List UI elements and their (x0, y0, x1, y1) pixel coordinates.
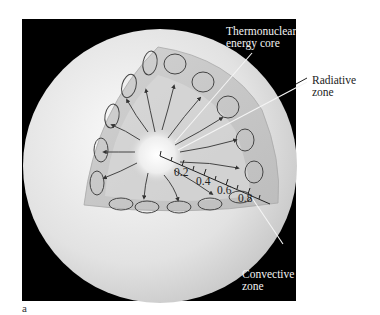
label-thermonuclear-core: Thermonuclear energy core (226, 25, 296, 49)
scale-tick-0.4: 0.4 (196, 175, 210, 187)
scale-tick-0.2: 0.2 (174, 166, 188, 178)
label-convective-zone: Convective zone (242, 268, 294, 292)
panel-letter: a (22, 302, 27, 314)
scale-tick-0.6: 0.6 (217, 184, 231, 196)
label-radiative-zone: Radiative zone (312, 74, 356, 98)
sun-interior-diagram (0, 0, 380, 315)
scale-tick-0.8: 0.8 (238, 192, 252, 204)
